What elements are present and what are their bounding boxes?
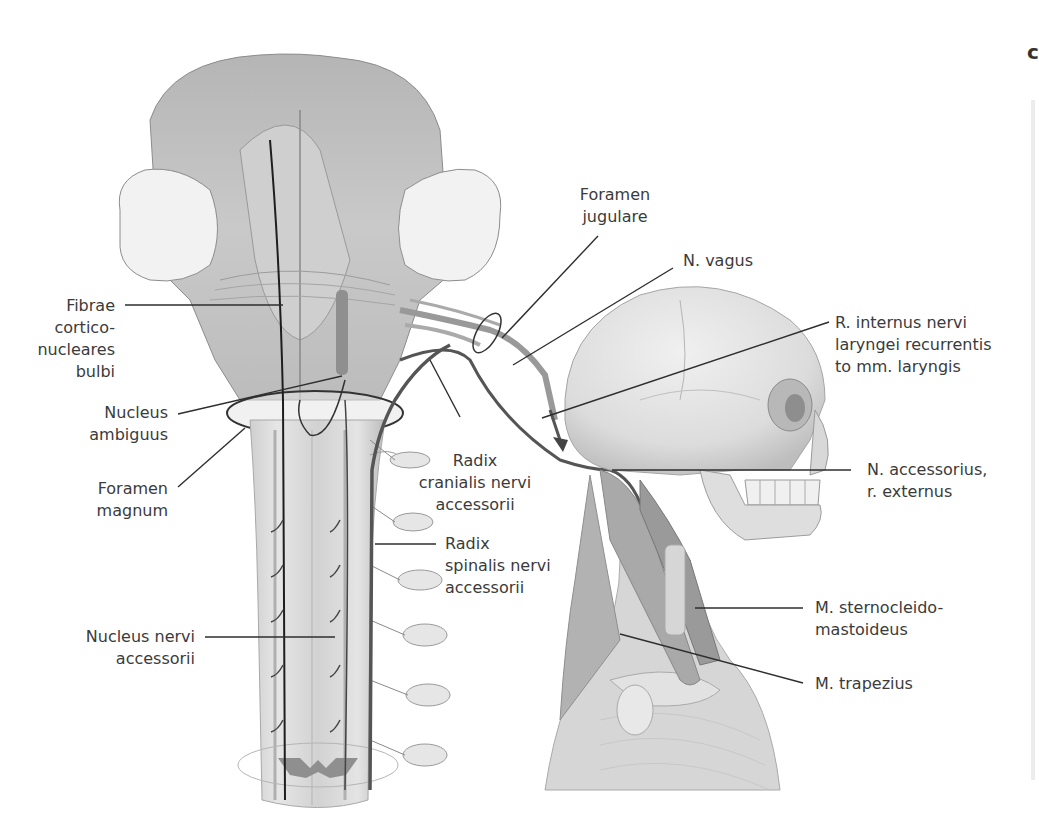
label-foramen-jugulare: Foramen jugulare <box>565 184 665 228</box>
label-m-trapezius: M. trapezius <box>815 673 913 695</box>
label-line: Nucleus <box>60 402 168 424</box>
label-line: Nucleus nervi <box>50 626 195 648</box>
label-line: spinalis nervi <box>445 555 551 577</box>
label-r-internus-nervi-laryngei-recurrentis: R. internus nervi laryngei recurrentis t… <box>835 312 992 378</box>
label-line: accessorii <box>410 494 540 516</box>
label-line: Fibrae <box>30 295 115 317</box>
label-nucleus-ambiguus: Nucleus ambiguus <box>60 402 168 446</box>
label-radix-spinalis: Radix spinalis nervi accessorii <box>445 533 551 599</box>
label-m-sternocleidomastoideus: M. sternocleido- mastoideus <box>815 597 943 641</box>
label-nucleus-nervi-accessorii: Nucleus nervi accessorii <box>50 626 195 670</box>
label-line: cortico- <box>30 317 115 339</box>
label-line: laryngei recurrentis <box>835 334 992 356</box>
label-line: r. externus <box>867 481 987 503</box>
label-line: Foramen <box>565 184 665 206</box>
label-radix-cranialis: Radix cranialis nervi accessorii <box>410 450 540 516</box>
label-line: nucleares <box>30 339 115 361</box>
label-line: N. accessorius, <box>867 459 987 481</box>
label-line: ambiguus <box>60 424 168 446</box>
spinal-cord <box>238 420 398 808</box>
label-line: magnum <box>60 500 168 522</box>
label-foramen-magnum: Foramen magnum <box>60 478 168 522</box>
head-and-neck <box>545 287 828 790</box>
label-n-accessorius-r-externus: N. accessorius, r. externus <box>867 459 987 503</box>
label-line: accessorii <box>445 577 551 599</box>
label-line: accessorii <box>50 648 195 670</box>
adjacent-panel-edge <box>1031 100 1035 780</box>
label-line: R. internus nervi <box>835 312 992 334</box>
label-line: M. trapezius <box>815 673 913 695</box>
label-line: mastoideus <box>815 619 943 641</box>
label-line: N. vagus <box>683 250 753 272</box>
panel-letter: c <box>1027 40 1039 64</box>
label-line: jugulare <box>565 206 665 228</box>
label-line: Foramen <box>60 478 168 500</box>
label-line: M. sternocleido- <box>815 597 943 619</box>
label-line: Radix <box>445 533 551 555</box>
label-line: bulbi <box>30 361 115 383</box>
label-line: Radix <box>410 450 540 472</box>
label-fibrae-corticonucleares-bulbi: Fibrae cortico- nucleares bulbi <box>30 295 115 383</box>
label-n-vagus: N. vagus <box>683 250 753 272</box>
label-line: to mm. laryngis <box>835 356 992 378</box>
label-line: cranialis nervi <box>410 472 540 494</box>
